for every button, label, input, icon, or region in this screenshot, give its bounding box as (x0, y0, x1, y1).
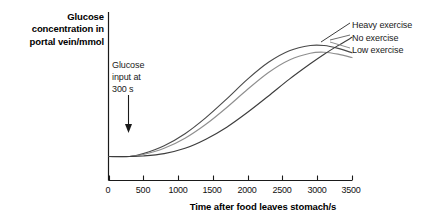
glucose-input-arrow (125, 95, 132, 133)
arrow-head (125, 124, 132, 133)
x-axis-ticks (110, 176, 353, 181)
data-series-group (109, 37, 353, 156)
series-line-heavy-exercise (109, 45, 353, 157)
plot-area (0, 0, 435, 221)
leader-line-heavy-exercise (321, 23, 350, 42)
chart-figure: Glucose concentration in portal vein/mmo… (0, 0, 435, 221)
legend-leader-lines (321, 23, 350, 48)
series-line-low-exercise (109, 37, 353, 156)
leader-line-no-exercise (330, 35, 350, 40)
series-line-no-exercise (109, 52, 353, 156)
